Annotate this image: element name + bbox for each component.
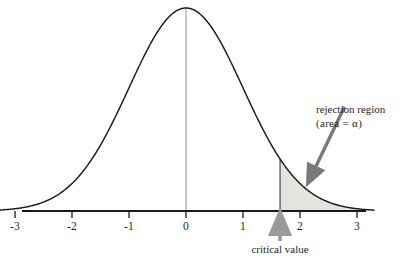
- normal-distribution-figure: -3 -2 -1 0 1 2 3 rejection region (area …: [0, 0, 418, 265]
- x-tick-label-zero: 0: [183, 220, 189, 232]
- x-tick-label-pos3: 3: [354, 220, 360, 232]
- rejection-region-label: rejection region (area = α): [316, 103, 385, 130]
- x-tick-label-pos1: 1: [240, 220, 246, 232]
- x-tick-label-neg2: -2: [67, 220, 77, 232]
- rejection-region-shading: [280, 159, 357, 211]
- x-tick-label-pos2: 2: [297, 220, 303, 232]
- rejection-region-label-line2: (area = α): [316, 117, 385, 131]
- critical-value-label: critical value: [251, 243, 308, 255]
- x-tick-label-neg1: -1: [124, 220, 134, 232]
- rejection-region-label-line1: rejection region: [316, 103, 385, 117]
- x-tick-label-neg3: -3: [10, 220, 20, 232]
